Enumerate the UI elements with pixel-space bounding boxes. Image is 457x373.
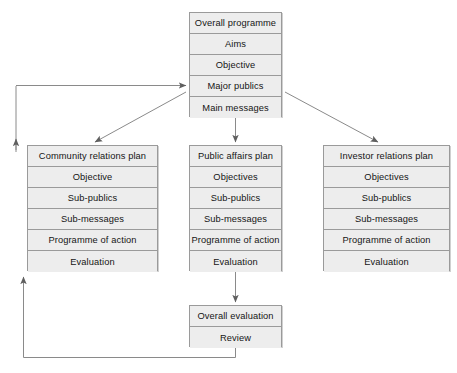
row-public-programme-of-action[interactable]: Programme of action xyxy=(190,230,281,251)
row-community-evaluation[interactable]: Evaluation xyxy=(28,251,157,272)
row-investor-sub-messages[interactable]: Sub-messages xyxy=(324,209,449,230)
row-investor-relations-plan[interactable]: Investor relations plan xyxy=(324,146,449,167)
diagram-canvas: Overall programme Aims Objective Major p… xyxy=(0,0,457,373)
row-public-objectives[interactable]: Objectives xyxy=(190,167,281,188)
overall-programme-stack: Overall programme Aims Objective Major p… xyxy=(189,12,282,117)
row-public-evaluation[interactable]: Evaluation xyxy=(190,251,281,272)
row-major-publics[interactable]: Major publics xyxy=(190,76,281,97)
row-community-sub-messages[interactable]: Sub-messages xyxy=(28,209,157,230)
row-community-relations-plan[interactable]: Community relations plan xyxy=(28,146,157,167)
row-overall-programme[interactable]: Overall programme xyxy=(190,13,281,34)
public-affairs-plan-stack: Public affairs plan Objectives Sub-publi… xyxy=(189,145,282,271)
row-investor-objectives[interactable]: Objectives xyxy=(324,167,449,188)
row-community-objective[interactable]: Objective xyxy=(28,167,157,188)
row-investor-evaluation[interactable]: Evaluation xyxy=(324,251,449,272)
wire-to-community-plan xyxy=(95,92,186,142)
overall-evaluation-stack: Overall evaluation Review xyxy=(189,305,282,347)
row-investor-sub-publics[interactable]: Sub-publics xyxy=(324,188,449,209)
row-investor-programme-of-action[interactable]: Programme of action xyxy=(324,230,449,251)
row-public-sub-messages[interactable]: Sub-messages xyxy=(190,209,281,230)
row-public-sub-publics[interactable]: Sub-publics xyxy=(190,188,281,209)
row-public-affairs-plan[interactable]: Public affairs plan xyxy=(190,146,281,167)
row-objective[interactable]: Objective xyxy=(190,55,281,76)
wire-to-investor-plan xyxy=(285,92,378,142)
row-review[interactable]: Review xyxy=(190,327,281,348)
community-relations-plan-stack: Community relations plan Objective Sub-p… xyxy=(27,145,158,271)
row-aims[interactable]: Aims xyxy=(190,34,281,55)
investor-relations-plan-stack: Investor relations plan Objectives Sub-p… xyxy=(323,145,450,271)
row-main-messages[interactable]: Main messages xyxy=(190,97,281,118)
row-community-programme-of-action[interactable]: Programme of action xyxy=(28,230,157,251)
row-overall-evaluation[interactable]: Overall evaluation xyxy=(190,306,281,327)
row-community-sub-publics[interactable]: Sub-publics xyxy=(28,188,157,209)
